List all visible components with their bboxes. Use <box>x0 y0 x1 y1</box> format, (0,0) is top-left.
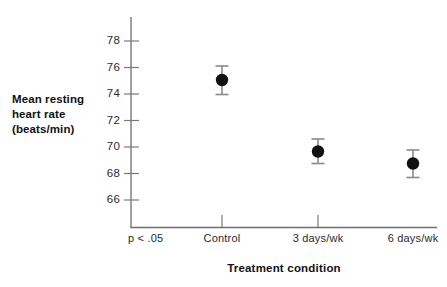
marker-control <box>216 74 228 86</box>
x-tick-label-3-days: 3 days/wk <box>273 232 363 244</box>
x-axis-title: Treatment condition <box>131 262 437 274</box>
y-tick-label-78: 78 <box>90 34 120 46</box>
y-tick-label-66: 66 <box>90 193 120 205</box>
data-point-3-days <box>312 139 325 164</box>
x-tick-label-6-days: 6 days/wk <box>368 232 447 244</box>
data-point-control <box>216 66 229 95</box>
x-tick-label-control: Control <box>182 232 262 244</box>
x-axis-ticks <box>222 215 318 227</box>
y-tick-label-76: 76 <box>90 61 120 73</box>
significance-note: p < .05 <box>128 232 163 244</box>
chart-figure: 78 76 74 72 70 68 66 Control 3 days/wk 6… <box>0 0 447 287</box>
y-axis-title-line-1: Mean resting <box>12 92 112 107</box>
marker-3-days <box>312 145 324 157</box>
marker-6-days <box>407 157 419 169</box>
data-point-6-days <box>407 150 420 178</box>
y-tick-label-68: 68 <box>90 167 120 179</box>
y-axis-title-line-3: (beats/min) <box>12 122 112 137</box>
y-tick-label-70: 70 <box>90 140 120 152</box>
y-axis-title-line-2: heart rate <box>12 107 112 122</box>
y-axis-title: Mean resting heart rate (beats/min) <box>12 92 112 137</box>
